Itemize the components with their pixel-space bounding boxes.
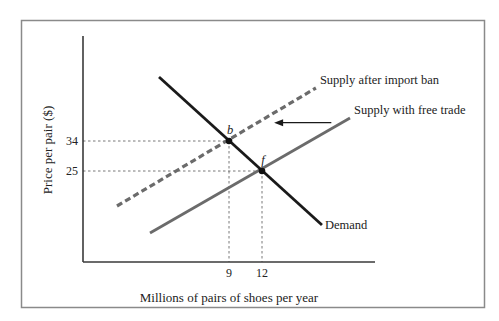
series-label-supply-after-import-ban: Supply after import ban — [320, 73, 440, 87]
equilibrium-label-b: b — [227, 123, 233, 137]
equilibrium-point-f — [259, 168, 266, 175]
y-tick-label: 25 — [66, 164, 78, 178]
x-tick-label: 9 — [226, 266, 232, 280]
equilibrium-point-b — [226, 138, 233, 145]
y-tick-label: 34 — [66, 134, 78, 148]
y-axis-label: Price per pair ($) — [40, 106, 55, 194]
x-tick-label: 12 — [256, 266, 268, 280]
x-axis-label: Millions of pairs of shoes per year — [140, 290, 319, 305]
chart: 9123425 DemandSupply after import banSup… — [0, 0, 499, 321]
series-label-demand: Demand — [325, 218, 368, 232]
series-label-supply-with-free-trade: Supply with free trade — [354, 103, 466, 117]
